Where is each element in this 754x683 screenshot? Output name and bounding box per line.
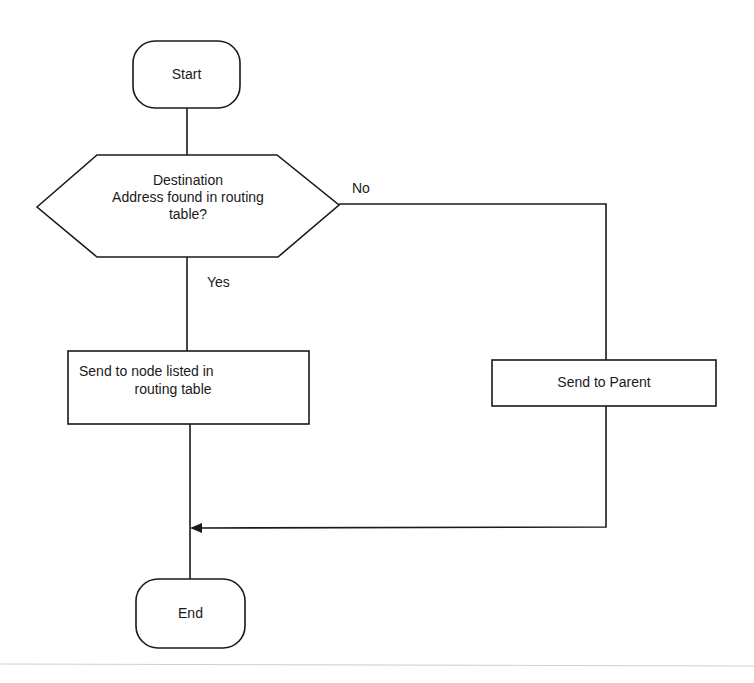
decision-line-3: table?: [37, 206, 339, 223]
edge-label-yes: Yes: [207, 274, 230, 290]
decision-line-1: Destination: [37, 172, 339, 189]
send-node-label-line-2: routing table: [68, 381, 278, 398]
edge-label-no: No: [352, 180, 370, 196]
arrowhead-icon: [190, 523, 202, 533]
end-node-label: End: [136, 605, 245, 622]
send-parent-label: Send to Parent: [492, 374, 716, 391]
decision-node-label: Destination Address found in routing tab…: [37, 172, 339, 223]
edge-decision-no: [339, 204, 606, 360]
decision-line-2: Address found in routing: [37, 189, 339, 206]
page-baseline: [0, 664, 754, 666]
flowchart-canvas: [0, 0, 754, 683]
send-node-label-line-1: Send to node listed in: [68, 363, 289, 380]
start-node-label: Start: [133, 66, 240, 83]
